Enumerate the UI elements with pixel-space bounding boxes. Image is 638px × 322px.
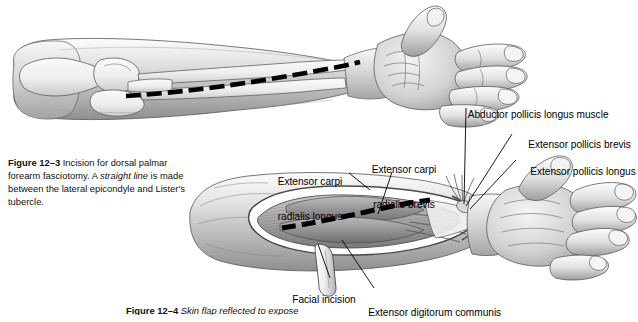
label-line-1: Extensor carpi [356, 164, 452, 176]
label-line-1: Extensor carpi [262, 176, 358, 188]
figure-12-4-caption: Figure 12–4 Skin flap reflected to expos… [126, 304, 376, 315]
label-extensor-pollicis-longus: Extensor pollicis longus [519, 154, 636, 189]
figure-number: Figure 12–3 [8, 157, 60, 168]
label-line-2: radialis brevis [356, 199, 452, 211]
label-line-1: Extensor pollicis brevis [528, 139, 631, 150]
label-extensor-carpi-radialis-brevis: Extensor carpi radialis brevis [356, 140, 452, 234]
label-extensor-carpi-radialis-longus: Extensor carpi radialis longus [262, 152, 358, 246]
caption-italic: Skin flap reflected to expose [181, 305, 299, 315]
figure-number: Figure 12–4 [126, 305, 178, 315]
figure-12-3-caption: Figure 12–3 Incision for dorsal palmar f… [8, 156, 190, 208]
label-line-1: Abductor pollicis longus muscle [468, 109, 609, 120]
label-line-2: radialis longus [262, 211, 358, 223]
distal-radius-block [128, 79, 172, 92]
top-figure-group [13, 6, 527, 127]
caption-italic: straight line [100, 170, 148, 181]
label-line-1: Extensor digitorum communis [368, 307, 501, 318]
label-extensor-digitorum-communis: Extensor digitorum communis [357, 295, 501, 322]
little-nail-lower [590, 256, 607, 270]
label-line-1: Extensor pollicis longus [530, 166, 635, 177]
